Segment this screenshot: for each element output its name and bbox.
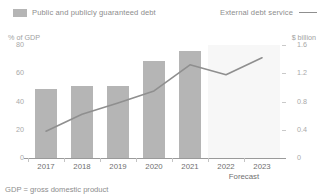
y-tick-right-1.2: 1.2	[297, 68, 319, 77]
legend-item-line: External debt service	[220, 8, 317, 17]
plot-area	[28, 45, 280, 158]
legend-label-line: External debt service	[220, 8, 293, 17]
forecast-note-label: Forecast	[229, 172, 259, 181]
legend-label-bar: Public and publicly guaranteed debt	[32, 8, 156, 17]
y-tick-right-0.4: 0.4	[297, 125, 319, 134]
y-tick-left-20: 20	[4, 125, 24, 134]
x-label-2017: 2017	[37, 162, 54, 171]
y-tick-mark-right-0.8	[282, 102, 286, 103]
y-tick-mark-right-0.4	[282, 130, 286, 131]
line-series	[28, 45, 280, 158]
x-label-2022: 2022	[217, 162, 234, 171]
x-label-2019: 2019	[109, 162, 126, 171]
y-tick-mark-right-1.6	[282, 45, 286, 46]
chart-footnote: GDP = gross domestic product	[5, 185, 108, 194]
x-label-2021: 2021	[181, 162, 198, 171]
x-label-2020: 2020	[145, 162, 162, 171]
y-tick-left-40: 40	[4, 97, 24, 106]
x-label-2018: 2018	[73, 162, 90, 171]
chart-legend: Public and publicly guaranteed debt Exte…	[0, 8, 323, 22]
legend-item-bar: Public and publicly guaranteed debt	[13, 8, 156, 17]
y-tick-right-0.8: 0.8	[297, 97, 319, 106]
y-tick-mark-right-1.2	[282, 73, 286, 74]
line-swatch-icon	[299, 12, 317, 13]
x-label-2023: 2023	[253, 162, 270, 171]
y-tick-right-0: 0	[297, 153, 319, 162]
chart-container: Public and publicly guaranteed debt Exte…	[0, 0, 323, 194]
y-tick-right-1.6: 1.6	[297, 40, 319, 49]
y-tick-left-0: 0	[4, 153, 24, 162]
y-tick-left-60: 60	[4, 68, 24, 77]
bar-swatch-icon	[13, 9, 27, 17]
y-tick-left-80: 80	[4, 40, 24, 49]
